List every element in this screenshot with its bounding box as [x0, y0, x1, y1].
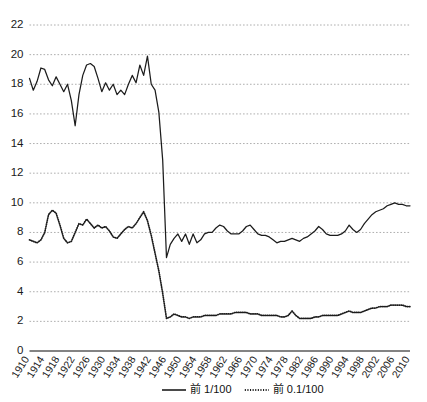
- ytick-label-14: 14: [11, 137, 24, 149]
- series-line-0: [30, 56, 411, 258]
- ytick-label-12: 12: [11, 166, 24, 178]
- xtick-label-2010: 2010: [389, 354, 412, 380]
- ytick-label-10: 10: [11, 196, 24, 208]
- ytick-label-2: 2: [17, 314, 23, 326]
- series-line-1: [30, 210, 411, 318]
- x-axis-tick-labels: 1910191419181922192619301934193819421946…: [9, 354, 412, 380]
- ytick-label-20: 20: [11, 48, 24, 60]
- ytick-label-22: 22: [11, 18, 24, 30]
- legend-label-1: 前 0.1/100: [273, 382, 324, 395]
- y-axis-tick-labels: 0246810121416182022: [11, 18, 24, 356]
- ytick-label-18: 18: [11, 77, 24, 89]
- line-chart: 0246810121416182022 19101914191819221926…: [0, 0, 427, 402]
- ytick-label-8: 8: [17, 225, 23, 237]
- series-lines: [30, 56, 411, 318]
- chart-container: 0246810121416182022 19101914191819221926…: [0, 0, 427, 402]
- ytick-label-16: 16: [11, 107, 24, 119]
- chart-legend: 前 1/100前 0.1/100: [162, 382, 324, 395]
- y-gridlines: [30, 25, 411, 321]
- ytick-label-6: 6: [17, 255, 23, 267]
- ytick-label-4: 4: [17, 285, 24, 297]
- legend-label-0: 前 1/100: [190, 382, 232, 395]
